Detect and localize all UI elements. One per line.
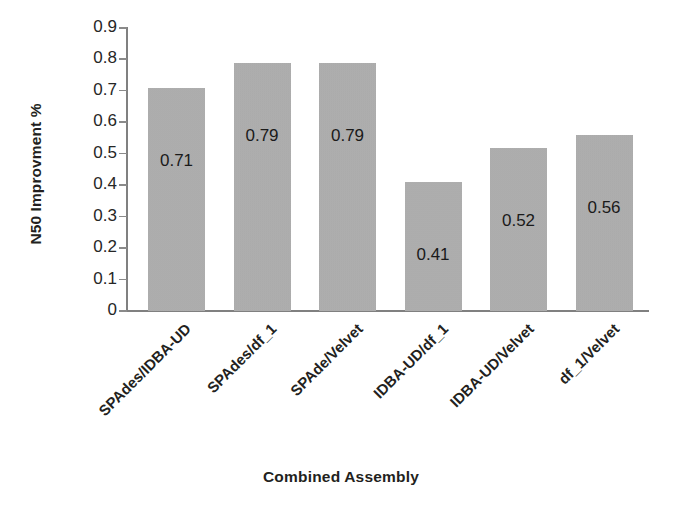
y-axis-tick-label: 0.6: [71, 112, 117, 129]
x-axis-category-label: IDBA-UD/df_1: [369, 320, 451, 402]
bar-value-label: 0.79: [234, 127, 291, 145]
x-axis-category-label: SPAdes/df_1: [204, 320, 280, 396]
bar: 0.52: [490, 148, 547, 312]
bar: 0.79: [319, 63, 376, 311]
bar: 0.41: [405, 182, 462, 311]
x-axis-title: Combined Assembly: [0, 468, 682, 486]
bar: 0.56: [576, 135, 633, 311]
y-axis-tick-mark: [119, 58, 127, 60]
y-axis-tick-mark: [119, 184, 127, 186]
plot-area: 0.710.790.790.410.520.56: [128, 27, 649, 311]
y-axis-tick-label: 0.1: [71, 270, 117, 287]
bar: 0.71: [148, 88, 205, 311]
y-axis-tick-label: 0.2: [71, 238, 117, 255]
y-axis-tick-label: 0: [71, 301, 117, 318]
y-axis-tick-mark: [119, 216, 127, 218]
bar-chart: N50 Improvment % 0.90.80.70.60.50.40.30.…: [0, 0, 682, 508]
y-axis-tick-mark: [119, 279, 127, 281]
y-axis-tick-label: 0.8: [71, 49, 117, 66]
bar-value-label: 0.52: [490, 212, 547, 230]
x-axis-category-label: SPAde/Velvet: [286, 320, 365, 399]
bar-value-label: 0.56: [576, 199, 633, 217]
y-axis-tick-mark: [119, 310, 127, 312]
bar: 0.79: [234, 63, 291, 311]
y-axis-tick-mark: [119, 27, 127, 29]
y-axis-tick-label: 0.5: [71, 144, 117, 161]
bar-value-label: 0.41: [405, 246, 462, 264]
x-axis-category-label: IDBA-UD/Velvet: [446, 320, 536, 410]
x-axis-category-label: df_1/Velvet: [555, 320, 622, 387]
y-axis-tick-label: 0.9: [71, 18, 117, 35]
y-axis-tick-mark: [119, 247, 127, 249]
y-axis-title: N50 Improvment %: [27, 69, 45, 279]
y-axis-tick-mark: [119, 153, 127, 155]
y-axis-tick-mark: [119, 90, 127, 92]
y-axis-tick-label: 0.3: [71, 207, 117, 224]
y-axis-tick-label: 0.4: [71, 175, 117, 192]
y-axis-tick-mark: [119, 121, 127, 123]
y-axis-tick-labels: 0.90.80.70.60.50.40.30.20.10: [60, 0, 117, 508]
bar-value-label: 0.71: [148, 152, 205, 170]
y-axis-tick-label: 0.7: [71, 81, 117, 98]
bar-value-label: 0.79: [319, 127, 376, 145]
